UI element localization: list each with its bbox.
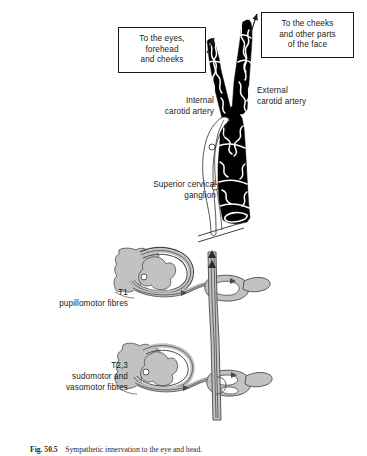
external-carotid-artery: [232, 19, 252, 114]
figure-caption-number: Fig. 50.5: [30, 445, 65, 454]
t1-central-canal: [141, 274, 147, 280]
trunk-break-marks: [198, 222, 244, 242]
label-superior-cervical-ganglion: Superior cervical ganglion: [96, 180, 216, 202]
t1-gray-matter: [139, 257, 176, 290]
figure-caption: Fig. 50.5 Sympathetic innervation to the…: [30, 445, 360, 456]
label-internal-carotid-artery: Internal carotid artery: [130, 96, 214, 118]
figure-caption-text: Sympathetic innervation to the eye and h…: [65, 445, 202, 454]
t23-grey-ramus: [245, 372, 272, 386]
callout-to-the-cheeks: To the cheeks and other parts of the fac…: [261, 12, 354, 58]
t1-grey-ramus: [243, 277, 270, 291]
label-external-carotid-artery: External carotid artery: [257, 86, 347, 108]
callout-to-the-eyes: To the eyes, forehead and cheeks: [118, 27, 206, 73]
t23-central-canal: [143, 369, 149, 375]
label-t23-sudomotor-vasomotor-fibres: T2,3 sudomotor and vasomotor fibres: [10, 361, 128, 393]
label-t1-pupillomotor-fibres: T1 pupillomotor fibres: [10, 288, 128, 310]
spinal-segment-t23: [115, 343, 272, 396]
spinal-segment-t1: [114, 248, 270, 302]
ganglion-node-upper: [209, 144, 215, 150]
anatomical-figure: To the eyes, forehead and cheeks To the …: [0, 0, 367, 456]
